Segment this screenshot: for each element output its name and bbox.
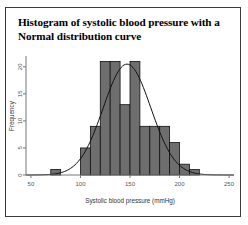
- histogram-bar: [170, 143, 180, 175]
- histogram-bar: [100, 61, 110, 175]
- x-axis-tick-label: 50: [28, 181, 35, 187]
- y-axis-tick-label: 20: [17, 63, 23, 70]
- histogram-bars: [51, 61, 200, 175]
- figure-frame: Histogram of systolic blood pressure wit…: [5, 7, 241, 217]
- histogram-bar: [80, 148, 90, 175]
- x-axis-title: Systolic blood pressure (mmHg): [85, 197, 175, 205]
- y-axis-tick-label: 10: [17, 117, 23, 124]
- y-axis-title: Frequency: [8, 100, 16, 131]
- x-axis-ticks: 50100150200250: [28, 175, 235, 187]
- histogram-bar: [110, 61, 120, 175]
- histogram-plot: 50100150200250 05101520 Systolic blood p…: [6, 46, 240, 216]
- x-axis-tick-label: 250: [224, 181, 235, 187]
- x-axis-tick-label: 100: [75, 181, 86, 187]
- histogram-svg: 50100150200250 05101520 Systolic blood p…: [6, 46, 240, 216]
- histogram-bar: [150, 126, 160, 175]
- y-axis-ticks: 05101520: [17, 63, 26, 177]
- figure-title-line-2: Normal distribution curve: [18, 30, 141, 42]
- y-axis-tick-label: 15: [17, 90, 23, 97]
- histogram-bar: [140, 126, 150, 175]
- histogram-bar: [90, 126, 100, 175]
- figure-title: Histogram of systolic blood pressure wit…: [18, 16, 233, 43]
- y-axis-tick-label: 5: [17, 146, 23, 150]
- histogram-bar: [120, 105, 130, 175]
- x-axis-tick-label: 200: [175, 181, 186, 187]
- figure-title-line-1: Histogram of systolic blood pressure wit…: [18, 16, 220, 28]
- histogram-bar: [130, 61, 140, 175]
- x-axis-tick-label: 150: [125, 181, 136, 187]
- y-axis-tick-label: 0: [17, 173, 23, 177]
